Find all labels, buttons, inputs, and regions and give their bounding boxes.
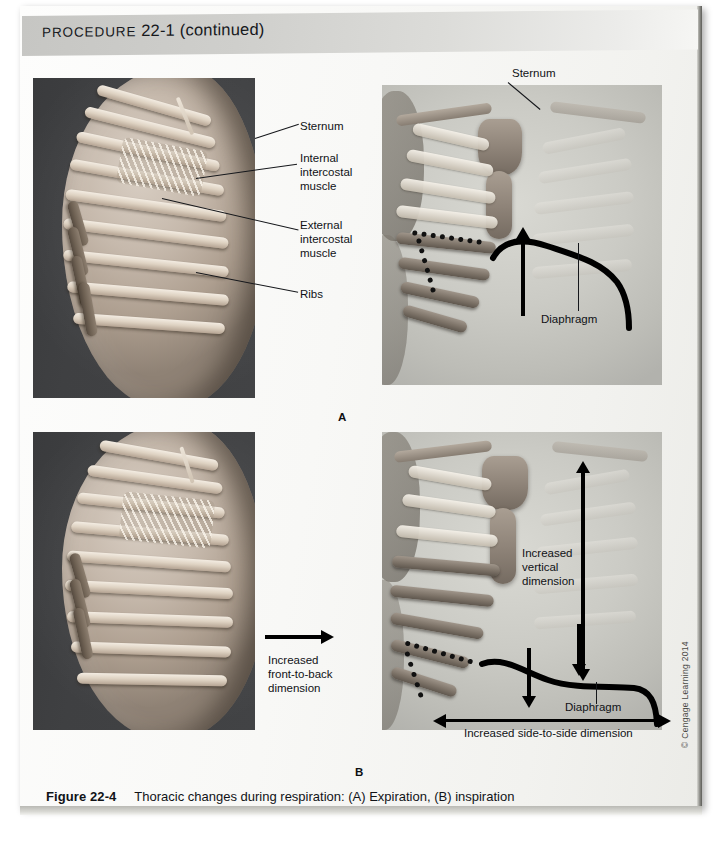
panel-b-lateral-photo (33, 432, 255, 730)
procedure-label: PROCEDURE (42, 24, 136, 40)
label-sternum-anterior: Sternum (512, 66, 555, 80)
label-vertical-line2: vertical (522, 560, 558, 574)
front-to-back-arrow-shaft (265, 635, 323, 639)
label-side-to-side: Increased side-to-side dimension (464, 726, 633, 740)
diaphragm-curve-inspiration (478, 650, 670, 728)
copyright-notice: © Cengage Learning 2014 (680, 641, 690, 748)
label-external-intercostal-line3: muscle (300, 246, 336, 260)
label-internal-intercostal-line1: Internal (300, 151, 338, 165)
label-vertical-line1: Increased (522, 546, 573, 560)
label-internal-intercostal-line3: muscle (300, 179, 336, 193)
diaphragm-up-arrow-head (516, 227, 530, 239)
label-sternum-lateral: Sternum (300, 119, 343, 133)
side-to-side-arrow-head-right (658, 714, 671, 728)
label-front-to-back-line2: front-to-back (268, 667, 333, 681)
label-ribs: Ribs (300, 287, 323, 301)
diaphragm-down-arrow-head-1 (522, 696, 536, 708)
figure-caption-text: Thoracic changes during respiration: (A)… (134, 789, 514, 804)
procedure-continued: (continued) (180, 20, 265, 39)
figure-caption: Figure 22-4 Thoracic changes during resp… (46, 789, 514, 804)
procedure-number: 22-1 (141, 21, 175, 39)
procedure-header-text: PROCEDURE 22-1 (continued) (42, 20, 265, 41)
page-bottom-edge-shadow (20, 806, 702, 815)
side-to-side-arrow-head-left (433, 714, 446, 728)
label-front-to-back-line1: Increased (268, 653, 319, 667)
label-internal-intercostal-line2: intercostal (300, 165, 352, 179)
diaphragm-up-arrow-shaft (521, 238, 525, 316)
vertical-dimension-arrow-head-top (576, 461, 590, 473)
diaphragm-down-arrow-head-2 (572, 664, 586, 676)
side-to-side-arrow-shaft (446, 719, 660, 722)
label-external-intercostal-line1: External (300, 218, 342, 232)
label-diaphragm-b: Diaphragm (565, 700, 621, 714)
label-external-intercostal-line2: intercostal (300, 232, 352, 246)
figure-number: Figure 22-4 (46, 789, 116, 804)
panel-a-lateral-photo (33, 78, 255, 398)
panel-letter-a: A (338, 411, 346, 423)
vertical-dimension-arrow-shaft (581, 472, 585, 670)
page-right-edge-shadow (697, 6, 702, 808)
intercostal-muscle-hatching-b (119, 491, 216, 548)
panel-letter-b: B (355, 766, 363, 778)
leader-diaphragm-a (578, 243, 579, 311)
front-to-back-arrow-head (321, 630, 334, 644)
label-vertical-line3: dimension (522, 574, 574, 588)
label-front-to-back-line3: dimension (268, 681, 320, 695)
diaphragm-down-arrow-shaft-1 (527, 648, 531, 698)
diaphragm-down-arrow-shaft-2 (577, 624, 581, 666)
textbook-page: PROCEDURE 22-1 (continued) Sternum Inter… (0, 0, 720, 845)
label-diaphragm-a: Diaphragm (541, 312, 597, 326)
